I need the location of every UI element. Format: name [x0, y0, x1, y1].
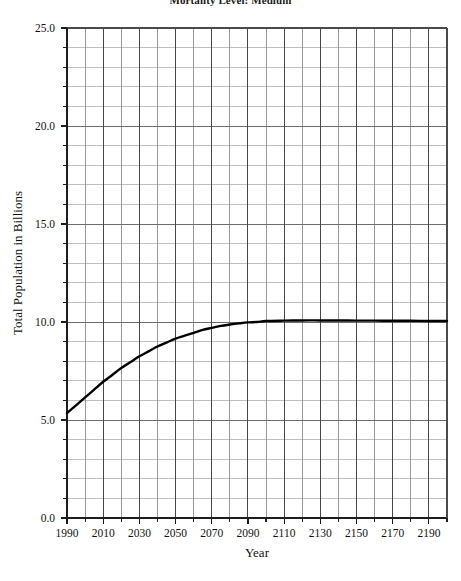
horizontal-major-gridlines — [67, 28, 447, 518]
y-axis-tick-label: 10.0 — [15, 317, 55, 327]
y-axis-tick-label: 25.0 — [15, 23, 55, 33]
x-axis-ticks — [67, 518, 447, 524]
horizontal-minor-gridlines — [67, 48, 447, 499]
y-axis-tick-label: 5.0 — [15, 415, 55, 425]
y-axis-tick-label: 15.0 — [15, 219, 55, 229]
y-axis-tick-label: 0.0 — [15, 513, 55, 523]
axis-frame — [67, 28, 447, 518]
plot-area — [0, 0, 461, 581]
x-axis-tick-label: 2190 — [406, 527, 452, 539]
series-line-total-population — [67, 320, 447, 413]
data-series-layer — [67, 320, 447, 413]
population-projection-chart: Mortality Level: Medium Total Population… — [0, 0, 461, 581]
y-axis-tick-label: 20.0 — [15, 121, 55, 131]
y-axis-ticks — [61, 28, 67, 518]
